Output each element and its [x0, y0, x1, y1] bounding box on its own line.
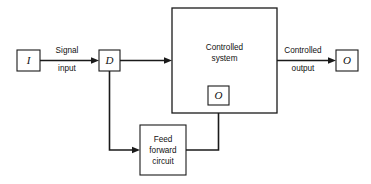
inner-output-label: O	[215, 89, 223, 101]
edge-detector-to-system	[120, 57, 172, 63]
feed-forward-label-line3: circuit	[152, 157, 174, 166]
detector-label: D	[105, 54, 114, 66]
edge-detector-to-feedforward	[110, 71, 141, 153]
output-block[interactable]: O	[336, 50, 358, 71]
controlled-system-label-line2: system	[212, 54, 238, 63]
signal-input-label-line1: Signal	[56, 46, 79, 55]
edge-input-to-detector	[40, 57, 99, 63]
signal-input-label: Signal input	[56, 46, 79, 73]
diagram-canvas: Controlled system O I D Feed forward cir…	[0, 0, 371, 184]
output-label: O	[343, 54, 351, 66]
block-diagram: Controlled system O I D Feed forward cir…	[0, 0, 371, 184]
controlled-output-label: Controlled output	[284, 46, 322, 73]
edge-system-to-output	[277, 57, 336, 63]
feed-forward-label-line2: forward	[149, 146, 177, 155]
detector-block[interactable]: D	[99, 50, 120, 71]
controlled-system-label-line1: Controlled	[206, 43, 244, 52]
controlled-output-label-line1: Controlled	[284, 46, 322, 55]
controlled-output-label-line2: output	[292, 64, 315, 73]
inner-output-block[interactable]: O	[208, 86, 229, 105]
input-block[interactable]: I	[17, 50, 40, 71]
signal-input-label-line2: input	[58, 64, 76, 73]
feed-forward-label-line1: Feed	[154, 135, 173, 144]
feed-forward-block[interactable]: Feed forward circuit	[140, 125, 186, 175]
